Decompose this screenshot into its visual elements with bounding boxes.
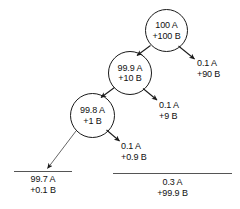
- node-lower: 99.8 A +1 B: [70, 93, 115, 138]
- label-middle-right-line2: +9 B: [159, 111, 177, 122]
- label-middle-right-line1: 0.1 A: [159, 100, 179, 111]
- label-top-right: 0.1 A +90 B: [197, 58, 220, 79]
- arrow-lower-to-waste: [107, 130, 120, 141]
- arrow-middle-to-waste: [143, 89, 157, 101]
- node-top: 100 A +100 B: [145, 9, 188, 52]
- node-middle-line2: +10 B: [118, 73, 141, 84]
- extraction-diagram: 100 A +100 B 99.9 A +10 B 99.8 A +1 B 0.…: [0, 0, 240, 209]
- label-middle-right: 0.1 A +9 B: [159, 100, 179, 121]
- label-top-right-line2: +90 B: [197, 69, 220, 80]
- label-lower-right-line2: +0.9 B: [121, 152, 147, 163]
- bucket-right-rule: [113, 173, 232, 174]
- arrow-top-to-waste: [179, 46, 195, 59]
- bucket-left-line1: 99.7 A: [31, 174, 56, 185]
- bucket-left-rule: [14, 171, 72, 172]
- bucket-right-line2: +99.9 B: [157, 188, 188, 199]
- node-lower-line2: +1 B: [83, 116, 101, 127]
- label-lower-right: 0.1 A +0.9 B: [121, 141, 147, 162]
- node-top-line1: 100 A: [155, 20, 178, 31]
- node-lower-line1: 99.8 A: [80, 105, 105, 116]
- bucket-right-line1: 0.3 A: [162, 177, 182, 188]
- arrow-lower-to-left-bucket: [48, 131, 77, 169]
- node-top-line2: +100 B: [152, 31, 180, 42]
- node-middle-line1: 99.9 A: [118, 63, 143, 74]
- label-lower-right-line1: 0.1 A: [121, 141, 141, 152]
- bucket-left-line2: +0.1 B: [30, 185, 56, 196]
- label-top-right-line1: 0.1 A: [197, 58, 217, 69]
- bucket-right: 0.3 A +99.9 B: [113, 177, 232, 198]
- bucket-left: 99.7 A +0.1 B: [14, 174, 72, 195]
- node-middle: 99.9 A +10 B: [108, 51, 152, 95]
